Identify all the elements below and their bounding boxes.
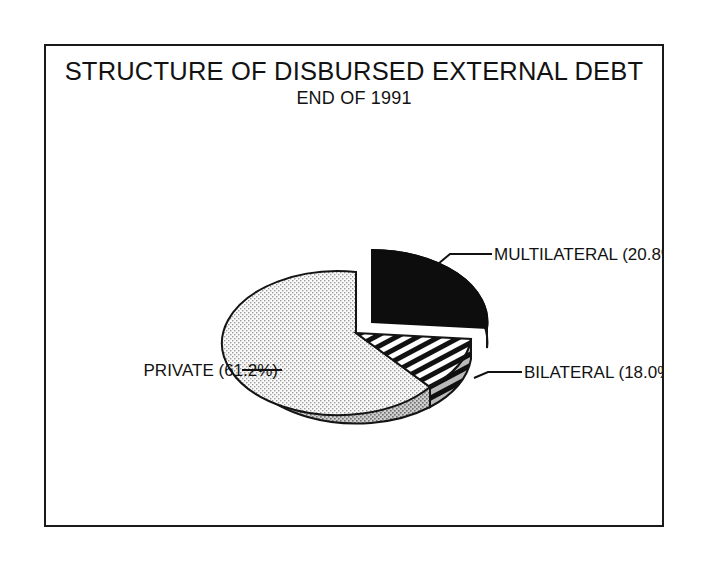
chart-figure: STRUCTURE OF DISBURSED EXTERNAL DEBT END… bbox=[0, 0, 701, 566]
pie-chart-area: MULTILATERAL (20.8%) BILATERAL (18.0%) P… bbox=[46, 90, 662, 525]
multilateral-slice-top bbox=[372, 250, 487, 328]
leader-line-bilateral bbox=[474, 372, 522, 378]
label-private: PRIVATE (61.2%) bbox=[144, 361, 278, 380]
page-title: STRUCTURE OF DISBURSED EXTERNAL DEBT bbox=[46, 56, 662, 86]
leader-line-multilateral bbox=[438, 254, 492, 264]
pie-chart-svg: MULTILATERAL (20.8%) BILATERAL (18.0%) P… bbox=[46, 90, 662, 525]
label-multilateral: MULTILATERAL (20.8%) bbox=[494, 245, 662, 264]
label-bilateral: BILATERAL (18.0%) bbox=[524, 363, 662, 382]
pie-slice-multilateral bbox=[372, 250, 487, 348]
